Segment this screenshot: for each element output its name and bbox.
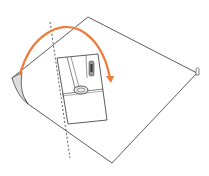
clasp-ring-icon: [74, 86, 88, 94]
corner-tab-icon: [196, 68, 199, 75]
fold-diagram: [0, 0, 209, 176]
